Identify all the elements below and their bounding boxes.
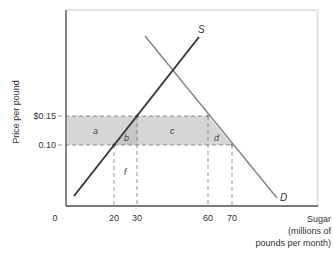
- point-30-015: [135, 114, 138, 117]
- shaded-region: [66, 116, 232, 145]
- x-tick-70: 70: [227, 213, 237, 223]
- x-axis-label-line2: (millions of: [288, 226, 332, 236]
- demand-label: D: [280, 192, 287, 203]
- plot-frame-shadow: [316, 10, 319, 206]
- y-tick-015: $0.15: [33, 111, 56, 121]
- region-a-label: a: [93, 126, 98, 136]
- point-20-010: [112, 143, 115, 146]
- y-axis-label: Price per pound: [11, 80, 21, 144]
- x-axis-label-line1: Sugar: [307, 214, 331, 224]
- x-tick-0: 0: [52, 213, 57, 223]
- x-axis-label-line3: pounds per month): [255, 238, 331, 248]
- region-b-label: b: [124, 133, 129, 143]
- x-tick-20: 20: [109, 213, 119, 223]
- point-70-010: [231, 144, 234, 147]
- x-tick-60: 60: [203, 213, 213, 223]
- x-tick-30: 30: [132, 213, 142, 223]
- y-tick-010: 0.10: [38, 140, 56, 150]
- plot-frame: [66, 10, 318, 206]
- chart: S D a b c d f $0.15 0.10 0 20 30 60 70 P…: [0, 0, 333, 255]
- supply-label: S: [198, 24, 205, 35]
- region-c-label: c: [170, 126, 175, 136]
- point-60-015: [207, 115, 210, 118]
